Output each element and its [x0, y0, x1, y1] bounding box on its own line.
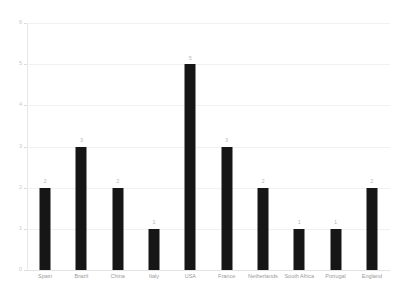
bar-value-label: 5	[189, 56, 192, 62]
y-tick-label-2: 2	[19, 185, 22, 191]
bar[interactable]	[112, 188, 123, 270]
y-tick-label-4: 4	[19, 103, 22, 109]
y-tick-label-6: 6	[19, 20, 22, 26]
bar-group: 3	[221, 23, 232, 270]
x-axis-label: South Africa	[284, 274, 314, 280]
x-axis-label: France	[218, 274, 235, 280]
bar-value-label: 1	[153, 220, 156, 226]
bar[interactable]	[221, 147, 232, 271]
x-axis-labels: SpainBrazilChinaItalyUSAFranceNetherland…	[27, 274, 390, 294]
bar-group: 5	[185, 23, 196, 270]
bar-value-label: 1	[298, 220, 301, 226]
x-axis-label: USA	[185, 274, 196, 280]
y-tick-mark-0	[24, 270, 27, 271]
x-axis-label: Italy	[149, 274, 159, 280]
bar[interactable]	[330, 229, 341, 270]
bar[interactable]	[257, 188, 268, 270]
bar-value-label: 2	[261, 179, 264, 185]
x-axis-label: Portugal	[325, 274, 346, 280]
bar-value-label: 2	[370, 179, 373, 185]
bar-group: 1	[149, 23, 160, 270]
bar-group: 1	[294, 23, 305, 270]
bar-group: 2	[40, 23, 51, 270]
bar-value-label: 3	[225, 138, 228, 144]
y-tick-label-3: 3	[19, 144, 22, 150]
bar-value-label: 2	[116, 179, 119, 185]
x-axis-label: Netherlands	[248, 274, 278, 280]
bar-value-label: 1	[334, 220, 337, 226]
bar[interactable]	[149, 229, 160, 270]
y-tick-label-5: 5	[19, 61, 22, 67]
x-axis-label: China	[111, 274, 125, 280]
bar[interactable]	[294, 229, 305, 270]
bar-group: 3	[76, 23, 87, 270]
bars-layer: 2321532112	[27, 23, 390, 270]
bar-group: 2	[112, 23, 123, 270]
gridline-0	[27, 270, 390, 271]
x-axis-label: England	[362, 274, 382, 280]
bar-group: 1	[330, 23, 341, 270]
bar-chart: 0123456 2321532112 SpainBrazilChinaItaly…	[0, 0, 405, 307]
bar-value-label: 2	[44, 179, 47, 185]
bar-group: 2	[257, 23, 268, 270]
plot-area: 0123456 2321532112	[27, 23, 390, 270]
x-axis-label: Spain	[38, 274, 52, 280]
bar[interactable]	[185, 64, 196, 270]
bar[interactable]	[76, 147, 87, 271]
bar[interactable]	[40, 188, 51, 270]
bar-value-label: 3	[80, 138, 83, 144]
y-tick-label-1: 1	[19, 226, 22, 232]
bar[interactable]	[366, 188, 377, 270]
y-tick-label-0: 0	[19, 267, 22, 273]
bar-group: 2	[366, 23, 377, 270]
x-axis-label: Brazil	[75, 274, 89, 280]
